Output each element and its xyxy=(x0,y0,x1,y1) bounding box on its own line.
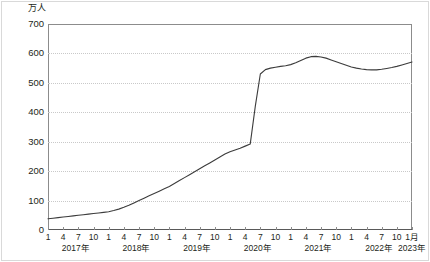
x-axis-month-label: 10 xyxy=(271,232,280,242)
x-axis-year-label: 2017年 xyxy=(62,243,90,253)
x-axis-year-label: 2018年 xyxy=(123,243,151,253)
x-axis-year-label: 2022年 xyxy=(365,243,393,253)
x-axis-month-label: 7 xyxy=(258,232,263,242)
x-axis-month-label: 4 xyxy=(364,232,369,242)
y-axis-tick-label: 0 xyxy=(39,225,44,235)
x-axis-year-label: 2019年 xyxy=(183,243,211,253)
x-axis-year-label: 2023年 xyxy=(398,243,426,253)
chart-container: 万人 0100200300400500600700 14710147101471… xyxy=(0,0,430,262)
x-axis-month-label: 1 xyxy=(228,232,233,242)
x-axis-year-label: 2020年 xyxy=(244,243,272,253)
x-axis-month-label: 10 xyxy=(210,232,219,242)
y-axis-tick-labels: 0100200300400500600700 xyxy=(14,24,44,230)
x-axis-month-label: 4 xyxy=(243,232,248,242)
y-axis-tick-label: 200 xyxy=(28,166,44,176)
y-axis-tick-label: 500 xyxy=(28,78,44,88)
x-axis-month-label: 7 xyxy=(76,232,81,242)
x-axis-month-label: 10 xyxy=(392,232,401,242)
plot-area xyxy=(48,24,412,230)
data-series-line xyxy=(48,24,412,230)
x-axis-month-label: 1 xyxy=(349,232,354,242)
x-axis-month-label: 1 xyxy=(167,232,172,242)
y-axis-tick-label: 600 xyxy=(28,48,44,58)
x-axis-month-label: 1 xyxy=(288,232,293,242)
y-axis-tick-label: 700 xyxy=(28,19,44,29)
y-axis-tick-label: 100 xyxy=(28,196,44,206)
x-axis-month-label: 10 xyxy=(331,232,340,242)
x-axis-month-label: 4 xyxy=(182,232,187,242)
x-axis-month-label: 10 xyxy=(149,232,158,242)
y-axis-tick-label: 400 xyxy=(28,107,44,117)
x-axis-month-label: 1月 xyxy=(405,232,419,242)
x-axis-year-label: 2021年 xyxy=(305,243,333,253)
x-axis-month-label: 4 xyxy=(303,232,308,242)
x-axis-month-label: 4 xyxy=(121,232,126,242)
x-axis-month-label: 10 xyxy=(89,232,98,242)
x-axis-month-label: 7 xyxy=(379,232,384,242)
series-path xyxy=(48,56,412,218)
x-axis-month-label: 4 xyxy=(61,232,66,242)
y-axis-tick-label: 300 xyxy=(28,137,44,147)
x-axis-month-label: 1 xyxy=(106,232,111,242)
x-axis-month-label: 7 xyxy=(137,232,142,242)
x-axis-month-label: 7 xyxy=(197,232,202,242)
x-axis-month-label: 1 xyxy=(46,232,51,242)
y-axis-unit-label: 万人 xyxy=(28,3,46,14)
x-axis-month-label: 7 xyxy=(319,232,324,242)
x-axis-tick-mark xyxy=(412,227,413,230)
x-axis-year-labels: 2017年2018年2019年2020年2021年2022年2023年 xyxy=(48,243,412,255)
